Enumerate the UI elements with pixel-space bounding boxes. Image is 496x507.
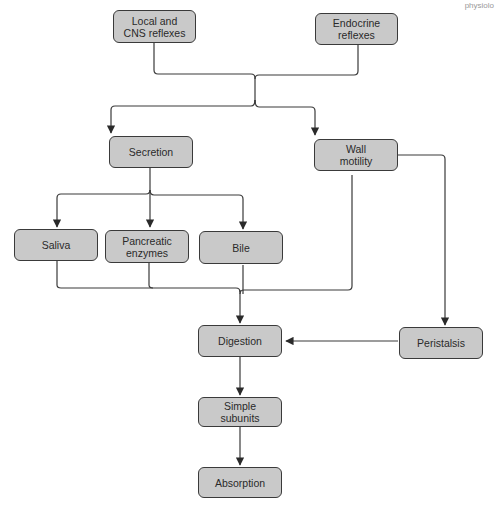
node-label: Saliva [42, 239, 71, 251]
node-peristalsis: Peristalsis [399, 327, 483, 359]
node-label: Endocrine reflexes [333, 17, 380, 41]
node-bile: Bile [199, 231, 283, 264]
node-label: Digestion [218, 335, 262, 347]
node-simple-subunits: Simple subunits [198, 397, 282, 427]
node-label: Local and CNS reflexes [124, 15, 186, 39]
flowchart: physiolo Local and CNS reflexes [0, 0, 496, 507]
node-label: Wall motility [340, 143, 373, 167]
node-label: Secretion [129, 146, 173, 158]
node-saliva: Saliva [14, 229, 98, 261]
node-label: Pancreatic enzymes [122, 235, 172, 259]
node-pancreatic-enzymes: Pancreatic enzymes [105, 230, 189, 263]
node-endocrine-reflexes: Endocrine reflexes [315, 13, 398, 45]
node-local-cns-reflexes: Local and CNS reflexes [113, 10, 196, 43]
node-wall-motility: Wall motility [314, 139, 398, 171]
node-label: Bile [232, 242, 250, 254]
node-label: Absorption [215, 477, 265, 489]
node-label: Simple subunits [203, 400, 277, 424]
node-secretion: Secretion [109, 136, 193, 168]
node-label: Peristalsis [417, 337, 465, 349]
node-absorption: Absorption [198, 467, 282, 498]
node-digestion: Digestion [198, 325, 282, 357]
